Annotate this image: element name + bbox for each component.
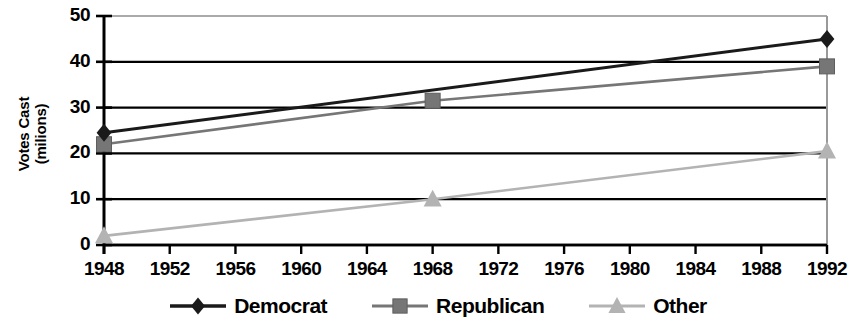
- x-tick-label: 1984: [660, 258, 732, 280]
- legend-marker-square-icon: [371, 295, 429, 317]
- x-tick-label: 1956: [199, 258, 271, 280]
- x-tick-label: 1972: [462, 258, 534, 280]
- legend-marker-diamond-icon: [169, 295, 227, 317]
- x-tick-label: 1964: [331, 258, 403, 280]
- chart-legend: DemocratRepublicanOther: [0, 288, 852, 323]
- legend-entry-republican[interactable]: Republican: [371, 295, 544, 317]
- x-tick-label: 1976: [528, 258, 600, 280]
- gridlines: [104, 62, 827, 245]
- legend-marker-triangle-icon: [588, 295, 646, 317]
- marker-diamond: [820, 30, 835, 48]
- legend-label: Democrat: [234, 295, 327, 316]
- series-other: [95, 142, 836, 244]
- x-tick-label: 1988: [725, 258, 797, 280]
- x-tick-label: 1952: [134, 258, 206, 280]
- x-tick-label: 1960: [265, 258, 337, 280]
- x-tick-label: 1968: [397, 258, 469, 280]
- x-tick-label: 1992: [791, 258, 852, 280]
- series-line: [104, 151, 827, 236]
- x-axis-tick-labels: 1948195219561960196419681972197619801984…: [104, 258, 828, 284]
- legend-label: Republican: [436, 295, 544, 316]
- marker-triangle: [818, 142, 836, 159]
- marker-square: [425, 93, 440, 108]
- series-democrat: [97, 30, 835, 142]
- plot-area: [0, 0, 852, 290]
- legend-entry-other[interactable]: Other: [588, 295, 707, 317]
- series-line: [104, 66, 827, 144]
- x-tick-label: 1980: [594, 258, 666, 280]
- marker-square: [820, 59, 835, 74]
- marker-square: [393, 298, 407, 312]
- line-chart: Votes Cast (milions) 01020304050 1948195…: [0, 0, 852, 323]
- series-republican: [97, 59, 835, 152]
- series-line: [104, 39, 827, 133]
- legend-label: Other: [653, 295, 707, 316]
- marker-diamond: [191, 297, 205, 314]
- x-axis-ticks: [104, 245, 827, 254]
- x-tick-label: 1948: [68, 258, 140, 280]
- legend-entry-democrat[interactable]: Democrat: [169, 295, 327, 317]
